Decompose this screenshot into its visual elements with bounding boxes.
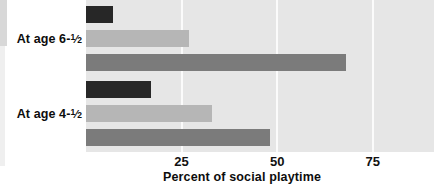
fraction-one-half: 1⁄2 xyxy=(70,33,82,45)
gridline-50 xyxy=(276,0,278,152)
category-label-age-6-and-a-half: At age 6-1⁄2 xyxy=(0,32,82,46)
x-axis-title: Percent of social playtime xyxy=(0,170,434,184)
category-label-text: At age 4- xyxy=(17,107,71,121)
x-axis-title-text: Percent of social playtime xyxy=(163,170,321,184)
bar-chart-figure: At age 6-1⁄2 At age 4-1⁄2 255075 Percent… xyxy=(0,0,434,187)
fraction-one-half: 1⁄2 xyxy=(70,108,82,120)
bar-group-0-series-2 xyxy=(86,54,346,71)
page-edge-artifact-bottom xyxy=(0,46,5,166)
plot-area xyxy=(86,0,434,152)
bar-group-0-series-0 xyxy=(86,6,113,23)
x-tick-75: 75 xyxy=(353,154,393,169)
category-label-age-4-and-a-half: At age 4-1⁄2 xyxy=(0,107,82,121)
x-tick-25: 25 xyxy=(162,154,202,169)
category-label-text: At age 6- xyxy=(17,32,71,46)
bar-group-1-series-2 xyxy=(86,129,270,146)
bar-group-1-series-1 xyxy=(86,105,212,122)
x-tick-50: 50 xyxy=(257,154,297,169)
bar-group-0-series-1 xyxy=(86,30,189,47)
gridline-75 xyxy=(372,0,374,152)
bar-group-1-series-0 xyxy=(86,81,151,98)
